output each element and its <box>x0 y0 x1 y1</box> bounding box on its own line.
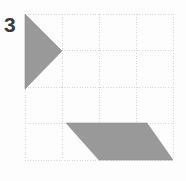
right-pointing-triangle <box>25 14 62 89</box>
figure-container: 3 <box>0 0 186 181</box>
shape-grid-canvas <box>0 0 186 181</box>
parallelogram <box>66 123 173 160</box>
